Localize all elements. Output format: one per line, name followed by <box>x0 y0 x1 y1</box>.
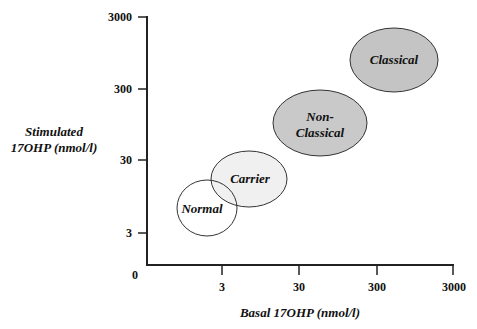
y-tick-label: 3000 <box>108 10 132 24</box>
region-label-normal: Normal <box>180 201 223 216</box>
region-label-non-classical-2: Classical <box>296 125 345 140</box>
x-axis-title: Basal 17OHP (nmol/l) <box>239 305 360 320</box>
y-tick-label: 3 <box>126 226 132 240</box>
y-tick-label: 30 <box>120 153 132 167</box>
x-tick-label: 30 <box>293 280 305 294</box>
y-axis-title-line2: 17OHP (nmol/l) <box>11 140 98 155</box>
region-label-carrier: Carrier <box>230 171 271 186</box>
y-axis-title-line1: Stimulated <box>25 124 83 139</box>
y-tick-label: 300 <box>114 82 132 96</box>
region-label-non-classical-1: Non- <box>305 109 333 124</box>
x-tick-label: 3 <box>219 280 225 294</box>
x-tick-label: 300 <box>368 280 386 294</box>
diagram-canvas: 3000 300 30 3 0 3 30 300 3000 Basal 17OH… <box>0 0 477 329</box>
region-label-classical: Classical <box>370 52 419 67</box>
origin-label: 0 <box>132 268 138 282</box>
x-tick-label: 3000 <box>442 280 466 294</box>
